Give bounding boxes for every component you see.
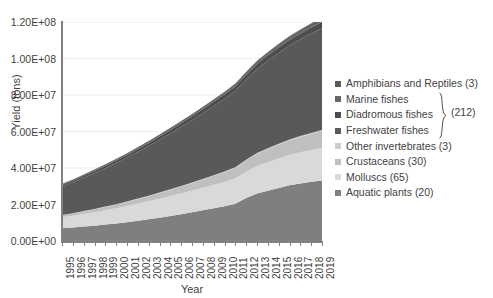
x-axis-tick-mark bbox=[300, 242, 301, 246]
legend-item[interactable]: Crustaceans (30) bbox=[335, 154, 493, 170]
chart-legend: (212) Amphibians and Reptiles (3)Marine … bbox=[335, 76, 493, 201]
x-axis-tick-label: 2009 bbox=[218, 257, 228, 279]
x-axis-tick-label: 2006 bbox=[185, 257, 195, 279]
x-axis-tick-mark bbox=[225, 242, 226, 246]
x-axis-tick-label: 2014 bbox=[272, 257, 282, 279]
x-axis-tick-label: 2018 bbox=[315, 257, 325, 279]
legend-item-label: Marine fishes bbox=[346, 94, 408, 105]
x-axis-tick-label: 1999 bbox=[109, 257, 119, 279]
legend-item-label: Diadromous fishes bbox=[346, 109, 433, 120]
y-axis-tick-labels: 1.20E+081.00E+088.00E+076.00E+074.00E+07… bbox=[0, 0, 56, 298]
x-axis-tick-label: 1996 bbox=[77, 257, 87, 279]
x-axis-tick-label: 2003 bbox=[153, 257, 163, 279]
y-axis-tick-label: 1.00E+08 bbox=[0, 54, 56, 64]
legend-item-label: Molluscs (65) bbox=[346, 172, 408, 183]
x-axis-tick-label: 1997 bbox=[88, 257, 98, 279]
legend-item[interactable]: Amphibians and Reptiles (3) bbox=[335, 76, 493, 92]
stacked-area-chart: Yield (tons) 1.20E+081.00E+088.00E+076.0… bbox=[0, 0, 493, 298]
x-axis-tick-label: 2008 bbox=[207, 257, 217, 279]
x-axis-tick-mark bbox=[290, 242, 291, 246]
x-axis-tick-mark bbox=[105, 242, 106, 246]
x-axis-tick-label: 2012 bbox=[250, 257, 260, 279]
x-axis-tick-label: 2016 bbox=[294, 257, 304, 279]
legend-swatch-icon bbox=[335, 143, 341, 149]
x-axis-tick-mark bbox=[138, 242, 139, 246]
legend-item[interactable]: Molluscs (65) bbox=[335, 170, 493, 186]
x-axis-tick-mark bbox=[170, 242, 171, 246]
x-axis-tick-mark bbox=[84, 242, 85, 246]
x-axis-tick-labels: 1995199619971998199920002001200220032004… bbox=[62, 247, 322, 287]
plot-area bbox=[62, 22, 322, 241]
legend-item-label: Amphibians and Reptiles (3) bbox=[346, 78, 478, 89]
y-axis-line bbox=[61, 21, 63, 242]
x-axis-tick-mark bbox=[116, 242, 117, 246]
x-axis-tick-mark bbox=[160, 242, 161, 246]
x-axis-tick-mark bbox=[181, 242, 182, 246]
x-axis-tick-label: 2019 bbox=[326, 257, 336, 279]
x-axis-tick-mark bbox=[149, 242, 150, 246]
x-axis-tick-label: 2013 bbox=[261, 257, 271, 279]
x-axis-title: Year bbox=[62, 283, 322, 295]
x-axis-tick-label: 2007 bbox=[196, 257, 206, 279]
legend-item-label: Other invertebrates (3) bbox=[346, 141, 452, 152]
legend-swatch-icon bbox=[335, 128, 341, 134]
legend-swatch-icon bbox=[335, 174, 341, 180]
x-axis-tick-mark bbox=[62, 242, 63, 246]
x-axis-tick-label: 2000 bbox=[120, 257, 130, 279]
x-axis-tick-mark bbox=[257, 242, 258, 246]
legend-swatch-icon bbox=[335, 190, 341, 196]
x-axis-tick-label: 2011 bbox=[239, 257, 249, 279]
legend-swatch-icon bbox=[335, 112, 341, 118]
legend-item[interactable]: Marine fishes bbox=[335, 92, 493, 108]
x-axis-tick-label: 1995 bbox=[66, 257, 76, 279]
x-axis-tick-mark bbox=[235, 242, 236, 246]
legend-item[interactable]: Aquatic plants (20) bbox=[335, 185, 493, 201]
legend-group-count: (212) bbox=[451, 107, 476, 118]
x-axis-tick-label: 2010 bbox=[229, 257, 239, 279]
x-axis-tick-mark bbox=[279, 242, 280, 246]
y-axis-tick-label: 0.00E+00 bbox=[0, 236, 56, 246]
x-axis-tick-label: 2015 bbox=[283, 257, 293, 279]
y-axis-tick-label: 1.20E+08 bbox=[0, 17, 56, 27]
legend-item-label: Aquatic plants (20) bbox=[346, 187, 434, 198]
legend-swatch-icon bbox=[335, 81, 341, 87]
x-axis-tick-mark bbox=[322, 242, 323, 246]
x-axis-tick-mark bbox=[95, 242, 96, 246]
legend-swatch-icon bbox=[335, 159, 341, 165]
x-axis-tick-mark bbox=[311, 242, 312, 246]
y-axis-tick-label: 4.00E+07 bbox=[0, 163, 56, 173]
legend-item[interactable]: Other invertebrates (3) bbox=[335, 138, 493, 154]
x-axis-tick-label: 2004 bbox=[164, 257, 174, 279]
y-axis-tick-label: 6.00E+07 bbox=[0, 127, 56, 137]
x-axis-tick-mark bbox=[268, 242, 269, 246]
area-series-group bbox=[62, 22, 322, 241]
legend-item-label: Freshwater fishes bbox=[346, 125, 429, 136]
x-axis-tick-mark bbox=[214, 242, 215, 246]
x-axis-tick-label: 2017 bbox=[304, 257, 314, 279]
legend-item-label: Crustaceans (30) bbox=[346, 156, 427, 167]
x-axis-tick-label: 2005 bbox=[174, 257, 184, 279]
x-axis-tick-mark bbox=[127, 242, 128, 246]
y-axis-tick-label: 2.00E+07 bbox=[0, 200, 56, 210]
y-axis-tick-label: 8.00E+07 bbox=[0, 90, 56, 100]
x-axis-tick-mark bbox=[73, 242, 74, 246]
legend-swatch-icon bbox=[335, 96, 341, 102]
x-axis-tick-label: 2001 bbox=[131, 257, 141, 279]
x-axis-tick-mark bbox=[203, 242, 204, 246]
x-axis-tick-label: 2002 bbox=[142, 257, 152, 279]
legend-item[interactable]: Freshwater fishes bbox=[335, 123, 493, 139]
x-axis-tick-mark bbox=[192, 242, 193, 246]
x-axis-tick-label: 1998 bbox=[99, 257, 109, 279]
x-axis-tick-mark bbox=[246, 242, 247, 246]
